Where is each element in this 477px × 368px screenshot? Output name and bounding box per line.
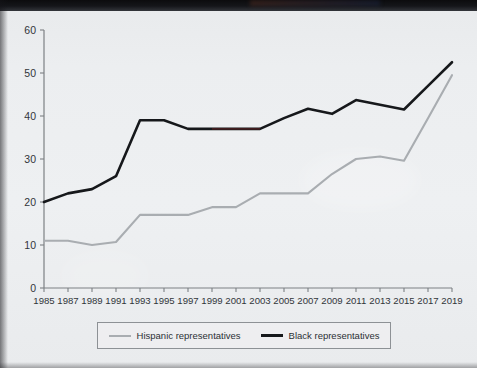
- x-tick-label: 2001: [225, 295, 246, 306]
- y-tick-label: 50: [24, 67, 36, 79]
- x-tick-label: 2005: [273, 295, 294, 306]
- series-line-hispanic: [44, 75, 452, 245]
- photo-top-band: [0, 0, 477, 11]
- photo-left-shadow: [0, 0, 8, 368]
- x-tick-label: 2019: [441, 295, 462, 306]
- legend-item-black[interactable]: Black representatives: [261, 330, 380, 341]
- chart-page: 0102030405060198519871989199119931995199…: [0, 0, 477, 368]
- x-tick-label: 2015: [393, 295, 414, 306]
- legend-item-hispanic[interactable]: Hispanic representatives: [109, 330, 241, 341]
- series-line-black: [44, 62, 452, 202]
- y-tick-label: 20: [24, 196, 36, 208]
- x-tick-label: 1999: [201, 295, 222, 306]
- x-tick-label: 1993: [129, 295, 150, 306]
- line-swatch-gray-icon: [109, 335, 131, 337]
- x-tick-label: 1987: [57, 295, 78, 306]
- y-tick-label: 30: [24, 153, 36, 165]
- x-tick-label: 2003: [249, 295, 270, 306]
- photo-bottom-shadow: [0, 362, 477, 368]
- x-tick-label: 1991: [105, 295, 126, 306]
- photo-top-band-tint: [250, 0, 380, 6]
- y-tick-label: 0: [30, 282, 36, 294]
- y-tick-label: 60: [24, 24, 36, 36]
- chart-legend[interactable]: Hispanic representatives Black represent…: [97, 322, 391, 349]
- x-tick-label: 2009: [321, 295, 342, 306]
- x-tick-label: 2011: [346, 295, 367, 306]
- y-tick-label: 40: [24, 110, 36, 122]
- x-tick-label: 1985: [33, 295, 54, 306]
- x-tick-label: 2017: [417, 295, 438, 306]
- line-swatch-black-icon: [261, 334, 283, 337]
- x-tick-label: 1989: [81, 295, 102, 306]
- x-tick-label: 2007: [297, 295, 318, 306]
- y-tick-label: 10: [24, 239, 36, 251]
- legend-label-hispanic: Hispanic representatives: [137, 330, 241, 341]
- legend-label-black: Black representatives: [289, 330, 380, 341]
- x-tick-label: 2013: [369, 295, 390, 306]
- x-tick-label: 1997: [177, 295, 198, 306]
- x-tick-label: 1995: [153, 295, 174, 306]
- line-chart: 0102030405060198519871989199119931995199…: [0, 0, 477, 368]
